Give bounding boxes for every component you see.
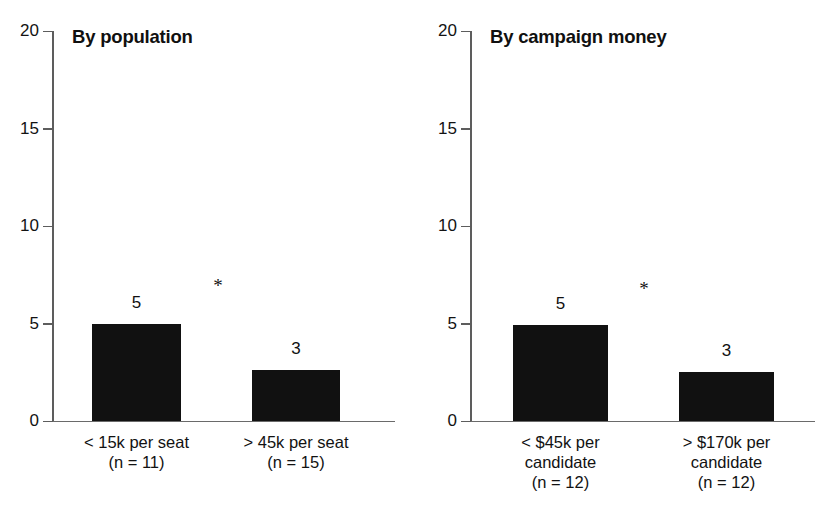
bar[interactable] — [252, 370, 340, 421]
y-tick-mark — [43, 323, 53, 325]
y-tick-mark — [43, 128, 53, 130]
y-tick-label: 20 — [0, 21, 39, 41]
x-category-label-line: > 45k per seat — [243, 432, 348, 452]
y-tick-mark — [461, 128, 471, 130]
y-tick-label: 5 — [0, 314, 39, 334]
y-tick-label: 15 — [397, 119, 457, 139]
x-category-label: > 45k per seat (n = 15) — [243, 432, 348, 472]
y-tick-mark — [43, 226, 53, 228]
y-tick-mark — [461, 323, 471, 325]
y-tick-mark — [461, 421, 471, 423]
y-tick-mark — [461, 226, 471, 228]
y-tick-mark — [43, 31, 53, 33]
y-tick-mark — [43, 421, 53, 423]
x-category-label-line: < $45k per — [521, 432, 599, 452]
x-category-label-line: candidate — [683, 452, 771, 472]
y-tick-label: 5 — [397, 314, 457, 334]
x-category-label-line: (n = 15) — [243, 452, 348, 472]
bar[interactable] — [679, 372, 774, 421]
y-tick-label: 10 — [397, 216, 457, 236]
bar[interactable] — [513, 325, 608, 421]
x-category-label-line: candidate — [521, 452, 599, 472]
bar-value-label: 5 — [132, 293, 141, 313]
significance-marker: * — [213, 276, 223, 295]
x-category-label: > $170k per candidate (n = 12) — [683, 432, 771, 492]
x-category-label-line: < 15k per seat — [84, 432, 189, 452]
panel-title: By population — [72, 26, 193, 48]
x-category-label-line: (n = 12) — [521, 472, 599, 492]
bar-value-label: 3 — [291, 339, 300, 359]
y-tick-label: 0 — [397, 411, 457, 431]
y-tick-label: 10 — [0, 216, 39, 236]
y-tick-label: 0 — [0, 411, 39, 431]
chart-panel-by-campaign-money: By campaign money 20 15 10 5 0 5 3 * < $… — [418, 0, 836, 527]
y-tick-label: 20 — [397, 21, 457, 41]
bar-chart-figure: By population 20 15 10 5 0 5 3 * < 15k p… — [0, 0, 836, 527]
x-category-label-line: (n = 12) — [683, 472, 771, 492]
significance-marker: * — [639, 279, 649, 298]
bar-value-label: 3 — [722, 341, 731, 361]
y-tick-mark — [461, 31, 471, 33]
x-category-label: < $45k per candidate (n = 12) — [521, 432, 599, 492]
bar[interactable] — [92, 324, 181, 421]
panel-title: By campaign money — [490, 26, 667, 48]
chart-panel-by-population: By population 20 15 10 5 0 5 3 * < 15k p… — [0, 0, 418, 527]
x-category-label-line: > $170k per — [683, 432, 771, 452]
x-category-label: < 15k per seat (n = 11) — [84, 432, 189, 472]
bar-value-label: 5 — [556, 294, 565, 314]
y-tick-label: 15 — [0, 119, 39, 139]
x-category-label-line: (n = 11) — [84, 452, 189, 472]
